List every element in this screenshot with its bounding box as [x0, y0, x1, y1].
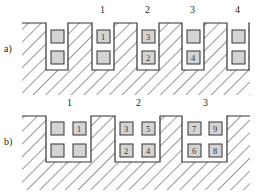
- conductor-cell: [51, 122, 64, 135]
- cell-number: 1: [101, 32, 105, 42]
- cell-number: 3: [124, 124, 128, 134]
- slot-number: 3: [203, 97, 208, 108]
- slot-number: 1: [67, 97, 72, 108]
- conductor-cell: [73, 144, 86, 157]
- part-a-label: a): [4, 43, 12, 55]
- cell-number: 2: [146, 53, 150, 63]
- cell-number: 8: [213, 146, 217, 156]
- conductor-cell: [232, 30, 245, 43]
- conductor-cell: [97, 51, 110, 64]
- cell-number: 6: [192, 146, 196, 156]
- conductor-cell: [51, 144, 64, 157]
- cell-number: 2: [124, 146, 128, 156]
- slot-number: 2: [145, 4, 150, 15]
- cell-number: 9: [213, 124, 217, 134]
- slot-number: 3: [190, 4, 195, 15]
- cell-number: 3: [146, 32, 150, 42]
- slot-number: 2: [136, 97, 141, 108]
- conductor-cell: [232, 51, 245, 64]
- part-b: b) 1 2 3 1 3 5 2 4 7 9 6 8: [4, 97, 250, 190]
- cell-number: 7: [192, 124, 196, 134]
- cell-number: 5: [146, 124, 150, 134]
- slot-diagram: a) 1 2 3 4 1 3 2 4 b) 1 2 3: [0, 0, 277, 193]
- conductor-cell: [51, 30, 64, 43]
- slot-number: 1: [100, 4, 105, 15]
- slot-number: 4: [235, 4, 240, 15]
- conductor-cell: [187, 30, 200, 43]
- cell-number: 1: [77, 124, 81, 134]
- part-a: a) 1 2 3 4 1 3 2 4: [4, 4, 250, 95]
- conductor-cell: [51, 51, 64, 64]
- part-b-label: b): [4, 136, 12, 148]
